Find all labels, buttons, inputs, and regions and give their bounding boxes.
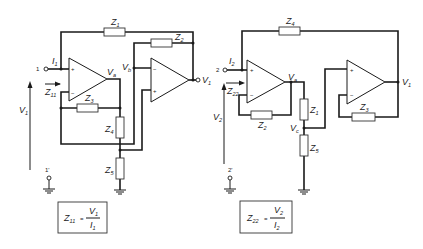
resistor-z5 [116, 158, 124, 179]
resistor-z2 [151, 39, 172, 47]
label-z1: Z1 [110, 17, 120, 28]
label-z3: Z3 [84, 93, 95, 104]
output-terminal [196, 78, 200, 82]
wire-plus-d [304, 69, 347, 128]
wire-plus-b [120, 90, 151, 150]
opamp-b [151, 58, 189, 102]
label-v1-out: V1 [202, 75, 211, 86]
label-z22: Z22 [226, 86, 239, 97]
label-v2-input: V2 [213, 112, 222, 123]
label-z2: Z2 [174, 32, 184, 43]
terminal-1-label: 1 [36, 66, 40, 72]
node [192, 79, 195, 82]
arrow-head-icon [28, 81, 33, 88]
label-i1: I1 [52, 56, 58, 67]
terminal-2p-label: 2' [228, 167, 232, 173]
opamp-b-plus: + [153, 88, 157, 94]
resistor-z5 [300, 135, 308, 156]
opamp-c-plus: + [250, 67, 254, 73]
node [192, 42, 195, 45]
label-z11: Z11 [44, 87, 56, 98]
formula-eq: = [80, 216, 84, 222]
left-circuit: Z1 Z2 1 I1 Z11 V1 + − Va Z3 [19, 17, 211, 233]
ground-icon [114, 190, 126, 194]
ground-icon [43, 189, 55, 193]
resistor-z1 [104, 28, 125, 36]
ground-icon [298, 190, 310, 194]
opamp-b-minus: − [153, 66, 157, 72]
node [60, 68, 63, 71]
label-z4: Z4 [285, 16, 295, 27]
terminal-1p [47, 176, 51, 180]
ground-icon [224, 189, 236, 193]
label-z4: Z4 [104, 124, 114, 135]
resistor-z2 [251, 111, 272, 119]
label-vc: Vc [290, 123, 299, 134]
opamp-a-minus: − [71, 90, 75, 96]
resistor-z3 [77, 104, 98, 112]
label-z2: Z2 [257, 120, 267, 131]
node [133, 67, 136, 70]
opamp-a-plus: + [71, 66, 75, 72]
label-vb: Vb [122, 62, 131, 73]
node [60, 107, 63, 110]
right-circuit: Z4 2 I2 Z22 V2 + − Va Z2 Z1 Vc Z5 [213, 16, 411, 233]
opamp-d-minus: − [350, 92, 354, 98]
opamp-c-minus: − [250, 92, 254, 98]
node [241, 69, 244, 72]
label-z5: Z5 [104, 165, 115, 176]
label-z3: Z3 [359, 102, 370, 113]
terminal-2 [223, 68, 227, 72]
arrow-head-icon [239, 81, 245, 86]
terminal-2-label: 2 [216, 67, 220, 73]
opamp-d-plus: + [350, 67, 354, 73]
resistor-z3 [352, 113, 375, 121]
resistor-z1 [300, 99, 308, 120]
terminal-2p [228, 176, 232, 180]
label-v1-input: V1 [19, 105, 28, 116]
label-z1: Z1 [309, 105, 319, 116]
resistor-z4 [116, 117, 124, 138]
label-i2: I2 [229, 56, 235, 67]
label-v1-out: V1 [402, 77, 411, 88]
arrow-head-icon [55, 82, 61, 87]
terminal-1p-label: 1' [45, 167, 49, 173]
terminal-1 [44, 67, 48, 71]
label-va: Va [107, 67, 116, 78]
formula-eq: = [264, 216, 268, 222]
circuit-diagram: Z1 Z2 1 I1 Z11 V1 + − Va Z3 [0, 0, 423, 249]
label-z5: Z5 [309, 143, 320, 154]
wire-va [107, 79, 120, 108]
arrow-head-icon [222, 83, 227, 90]
resistor-z4 [279, 27, 300, 35]
